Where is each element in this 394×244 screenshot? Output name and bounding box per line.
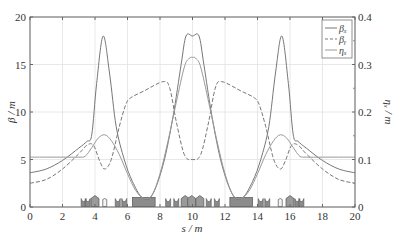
magnet-sextupole: [122, 199, 127, 207]
x-tick-label: 8: [157, 210, 163, 222]
magnet-sextupole: [265, 199, 270, 207]
y2-tick-label: 0.4: [358, 11, 372, 23]
y2-tick-label: 0: [358, 201, 364, 213]
y-tick-label: 20: [15, 11, 27, 23]
magnet-dipole-small: [103, 199, 107, 207]
x-tick-label: 4: [92, 210, 98, 222]
x-tick-label: 0: [27, 210, 33, 222]
grid: [30, 17, 355, 207]
x-tick-label: 2: [60, 210, 66, 222]
y2-tick-label: 0.1: [358, 154, 372, 166]
y-tick-label: 0: [21, 201, 27, 213]
y2-tick-label: 0.3: [358, 59, 372, 71]
magnet-sextupole: [115, 199, 120, 207]
y2-axis-label: ηₓ / m: [383, 99, 394, 124]
magnet-sextupole: [258, 199, 263, 207]
y-axis-label: β / m: [5, 101, 17, 124]
x-tick-label: 12: [220, 210, 231, 222]
magnet-quadrupole: [188, 196, 196, 207]
x-tick-label: 10: [187, 210, 199, 222]
y-tick-label: 15: [15, 59, 27, 71]
magnet-sextupole: [299, 199, 304, 207]
x-tick-label: 16: [285, 210, 297, 222]
x-axis-ticks: 02468101214161820: [27, 17, 361, 222]
x-tick-label: 6: [125, 210, 131, 222]
magnet-sextupole: [85, 199, 90, 207]
legend-entry: ηₓ: [339, 45, 347, 56]
x-tick-label: 14: [252, 210, 264, 222]
legend: βₓβᵧηₓ: [322, 20, 352, 58]
optics-chart: 02468101214161820 05101520 00.10.20.30.4…: [0, 0, 394, 244]
y2-tick-label: 0.2: [358, 106, 372, 118]
magnet-dipole-small: [278, 199, 282, 207]
legend-entry: βₓ: [338, 23, 347, 34]
magnet-quadrupole: [196, 196, 204, 207]
y-tick-label: 5: [21, 154, 27, 166]
x-axis-label: s / m: [182, 222, 203, 234]
x-tick-label: 18: [317, 210, 329, 222]
legend-entry: βᵧ: [338, 34, 347, 45]
magnet-sextupole: [174, 199, 179, 207]
magnet-sextupole: [214, 199, 219, 207]
magnet-sextupole: [166, 199, 171, 207]
magnet-sextupole: [206, 199, 211, 207]
